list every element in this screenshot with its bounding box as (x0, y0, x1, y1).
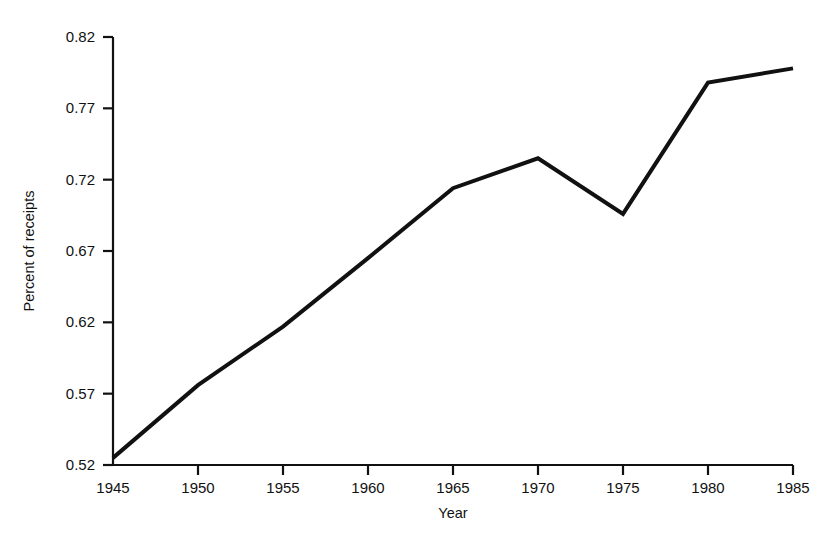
x-axis-tick-label: 1960 (351, 479, 384, 496)
x-axis-title: Year (438, 505, 467, 521)
y-axis-tick-labels: 0.520.570.620.670.720.770.82 (66, 28, 95, 473)
y-axis-tick-label: 0.82 (66, 28, 95, 45)
y-axis-tick-label: 0.62 (66, 313, 95, 330)
x-axis-tick-label: 1965 (436, 479, 469, 496)
x-axis-tick-label: 1980 (691, 479, 724, 496)
x-axis-ticks (198, 465, 793, 475)
x-axis-tick-label: 1985 (776, 479, 809, 496)
data-series-line (113, 68, 793, 457)
axis-lines (113, 37, 793, 465)
x-axis-tick-label: 1955 (266, 479, 299, 496)
y-axis-title: Percent of receipts (21, 191, 37, 312)
line-chart: 0.520.570.620.670.720.770.82 19451950195… (0, 0, 834, 550)
y-axis-tick-label: 0.72 (66, 171, 95, 188)
y-axis-ticks (103, 37, 113, 465)
y-axis-tick-label: 0.52 (66, 456, 95, 473)
y-axis-tick-label: 0.57 (66, 385, 95, 402)
y-axis-tick-label: 0.67 (66, 242, 95, 259)
x-axis-tick-label: 1970 (521, 479, 554, 496)
y-axis-tick-label: 0.77 (66, 99, 95, 116)
x-axis-tick-labels: 194519501955196019651970197519801985 (96, 479, 809, 496)
chart-container: 0.520.570.620.670.720.770.82 19451950195… (0, 0, 834, 550)
x-axis-tick-label: 1975 (606, 479, 639, 496)
x-axis-tick-label: 1945 (96, 479, 129, 496)
x-axis-tick-label: 1950 (181, 479, 214, 496)
